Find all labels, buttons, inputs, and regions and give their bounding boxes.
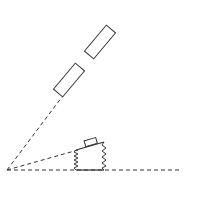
diagram-canvas [0, 0, 199, 203]
upper-rectangle [84, 25, 115, 59]
inclined-ray [7, 150, 78, 170]
lower-rectangle [53, 63, 84, 97]
steep-ray [7, 97, 62, 170]
left-spring [74, 150, 78, 170]
right-spring [102, 142, 106, 170]
block-on-platform [84, 138, 97, 147]
platform-top [76, 142, 104, 150]
